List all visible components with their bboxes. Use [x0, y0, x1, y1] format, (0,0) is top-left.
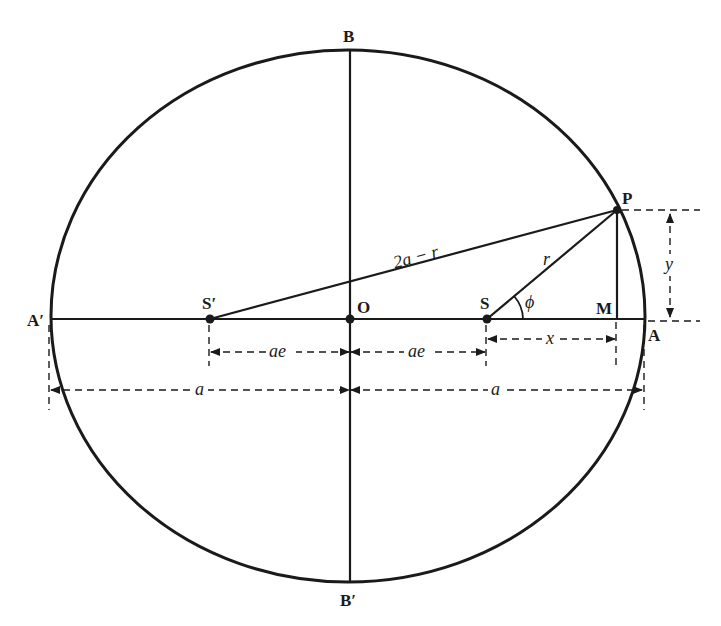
- label-a-left: a: [195, 379, 204, 399]
- label-r: r: [543, 249, 551, 269]
- label-s-prime: S′: [202, 294, 216, 313]
- label-a: A: [648, 326, 661, 345]
- point-s: [483, 315, 492, 324]
- label-ae-right: ae: [408, 341, 425, 361]
- label-x: x: [545, 328, 554, 348]
- label-y: y: [663, 254, 673, 274]
- point-o: [346, 315, 355, 324]
- label-o: O: [357, 298, 370, 317]
- label-phi: ϕ: [525, 292, 534, 312]
- label-a-right: a: [491, 379, 500, 399]
- label-s: S: [480, 294, 489, 313]
- ellipse-diagram: y x ae ae a a 2a − r r ϕ B B′ A′ A O S′ …: [0, 0, 721, 626]
- label-m: M: [596, 299, 612, 318]
- angle-arc-phi: [514, 296, 523, 319]
- point-p: [613, 206, 621, 214]
- label-a-prime: A′: [27, 311, 44, 330]
- label-p: P: [622, 189, 632, 208]
- label-b: B: [343, 27, 354, 46]
- label-b-prime: B′: [340, 591, 356, 610]
- label-ae-left: ae: [269, 341, 286, 361]
- label-2a-minus-r: 2a − r: [391, 241, 442, 273]
- point-s-prime: [206, 315, 215, 324]
